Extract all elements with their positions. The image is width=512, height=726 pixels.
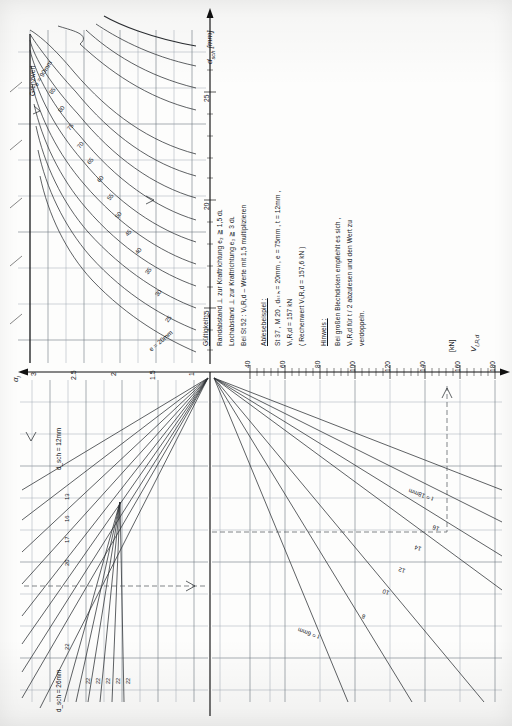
axis-vertical-lower bbox=[196, 372, 228, 726]
v-tick-40: 40 bbox=[245, 361, 252, 368]
notes-example-line-1: St 37 , M 20 , dₛₜₕ = 20mm , e = 75mm , … bbox=[274, 191, 282, 346]
read-arrow-ll-top bbox=[26, 432, 36, 441]
v-tick-180: 180 bbox=[490, 361, 497, 372]
notes-validity-line-3: Bei St 52 : Vₗ,R,d – Werte mit 1,5 multi… bbox=[240, 205, 248, 346]
quadrant-lower-left bbox=[0, 372, 212, 726]
quadrant-upper-left bbox=[0, 0, 212, 372]
v-tick-160: 160 bbox=[455, 361, 462, 372]
cluster-label-2: 22 bbox=[96, 678, 102, 684]
curve-label-dsch-13: 13 bbox=[64, 493, 70, 500]
notes-block: Gültigkeit : Randabstand ⊥ zur Kraftrich… bbox=[196, 46, 366, 346]
notes-example-line-2: Vₗ,R,d = 157 kN bbox=[286, 299, 294, 346]
axis-unit-kn: [kN] bbox=[448, 340, 455, 352]
notes-validity-line-1: Randabstand ⊥ zur Kraftrichtung e₂ ≧ 1,5… bbox=[216, 209, 224, 346]
quadrant-lower-right bbox=[206, 372, 512, 726]
v-tick-80: 80 bbox=[315, 361, 322, 368]
notes-hint-heading: Hinweis : bbox=[320, 318, 327, 346]
label-dsch-12mm: d_sch = 12mm bbox=[56, 428, 62, 470]
notes-validity-heading: Gültigkeit : bbox=[202, 314, 209, 346]
notes-example-line-3: ( Rechenwert Vₗ,R,d = 157,6 kN ) bbox=[298, 246, 306, 346]
notes-example-heading: Ablesebeispiel : bbox=[260, 298, 267, 346]
cluster-label-3: 22 bbox=[106, 678, 112, 684]
v-tick-60: 60 bbox=[280, 361, 287, 368]
nomogram-sheet: 3 2.5 2 1.5 1 αl Grenzwert e = 90mm e = … bbox=[0, 0, 512, 726]
v-tick-140: 140 bbox=[420, 361, 427, 372]
cluster-label-5: 22 bbox=[126, 678, 132, 684]
v-tick-120: 120 bbox=[385, 361, 392, 372]
hatch-marks-ul bbox=[10, 82, 22, 324]
curve-label-dsch-17: 17 bbox=[64, 536, 70, 543]
curve-family-e bbox=[30, 16, 196, 352]
curve-label-dsch-16: 16 bbox=[64, 515, 70, 522]
curve-label-dsch-20: 20 bbox=[64, 559, 70, 566]
v-tick-100: 100 bbox=[350, 361, 357, 372]
cluster-label-1: 22 bbox=[86, 678, 92, 684]
notes-validity-line-2: Lochabstand ⊥ zur Kraftrichtung e₃ ≧ 3 d… bbox=[228, 216, 236, 346]
curve-family-t bbox=[214, 378, 502, 702]
notes-hint-line-1: Bei großen Blechdicken empfiehlt es sich… bbox=[334, 218, 341, 346]
curve-label-dsch-22: 22 bbox=[64, 643, 70, 650]
cluster-label-4: 22 bbox=[116, 678, 122, 684]
notes-hint-line-2: Vₗ,R,d für t / 2 abzulesen und den Wert … bbox=[346, 220, 354, 346]
axis-label-v-lrd: Vl,R,d bbox=[470, 335, 480, 352]
label-dsch-26mm: d_sch = 26mm bbox=[56, 670, 62, 712]
notes-hint-line-3: verdoppeln. bbox=[358, 310, 365, 346]
